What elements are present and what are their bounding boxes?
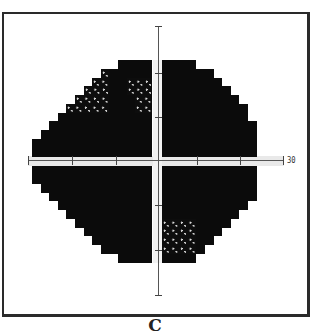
patterned-cells	[127, 86, 153, 95]
defect-row	[162, 86, 231, 95]
v-axis-tick	[155, 250, 162, 251]
defect-row	[162, 201, 248, 210]
visual-field-plot: 30	[0, 0, 310, 336]
h-axis-tick	[72, 156, 73, 165]
defect-row	[118, 254, 152, 263]
defect-row	[41, 130, 153, 139]
defect-row	[162, 104, 248, 113]
defect-row	[49, 192, 152, 201]
figure-caption: C	[0, 315, 310, 335]
defect-row	[162, 192, 257, 201]
defect-row	[66, 210, 152, 219]
defect-row	[162, 139, 257, 148]
patterned-cells	[127, 78, 153, 87]
patterned-cells	[135, 95, 152, 104]
patterned-cells	[162, 236, 196, 245]
defect-row	[162, 184, 257, 193]
defect-row	[58, 113, 153, 122]
v-axis-tick	[155, 26, 162, 27]
defect-row	[118, 60, 152, 69]
v-axis-tick	[155, 73, 162, 74]
defect-row	[75, 219, 152, 228]
defect-row	[162, 113, 248, 122]
patterned-cells	[162, 245, 196, 254]
defect-row	[162, 121, 257, 130]
defect-row	[32, 175, 152, 184]
defect-row	[84, 227, 153, 236]
defect-row	[41, 184, 153, 193]
defect-row	[162, 148, 257, 157]
defect-row	[162, 175, 257, 184]
h-axis-tick	[240, 156, 241, 165]
defect-row	[162, 254, 196, 263]
patterned-cells	[162, 219, 196, 228]
defect-row	[162, 95, 239, 104]
defect-row	[162, 210, 239, 219]
h-axis-tick	[283, 156, 284, 165]
defect-row	[58, 201, 153, 210]
defect-row	[162, 60, 196, 69]
defect-row	[101, 245, 153, 254]
defect-row	[32, 148, 152, 157]
h-axis-tick	[28, 156, 29, 165]
patterned-cells	[84, 86, 110, 95]
defect-row	[162, 69, 214, 78]
patterned-cells	[162, 227, 196, 236]
defect-row	[162, 78, 222, 87]
axis-label-30: 30	[287, 155, 296, 165]
defect-row	[32, 139, 152, 148]
patterned-cells	[75, 95, 109, 104]
patterned-cells	[135, 104, 152, 113]
patterned-cells	[66, 104, 109, 113]
h-axis-tick	[116, 156, 117, 165]
defect-row	[32, 166, 152, 175]
patterned-cells	[92, 78, 109, 87]
defect-row	[162, 166, 257, 175]
defect-row	[49, 121, 152, 130]
v-axis-tick	[155, 117, 162, 118]
v-axis-tick	[155, 205, 162, 206]
h-axis-tick	[197, 156, 198, 165]
defect-row	[92, 236, 152, 245]
vertical-axis	[158, 26, 159, 296]
defect-row	[162, 130, 257, 139]
horizontal-axis	[28, 160, 284, 161]
v-axis-tick	[155, 295, 162, 296]
patterned-cells	[101, 69, 110, 78]
